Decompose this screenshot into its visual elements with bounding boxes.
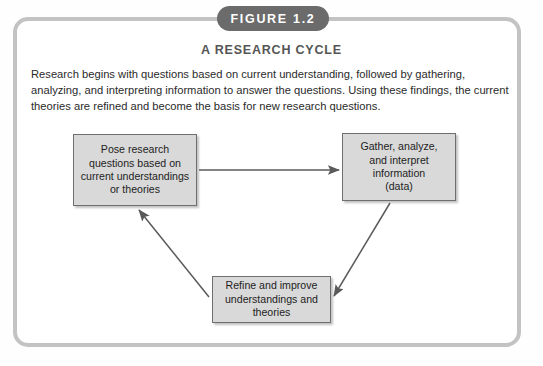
- figure-title: A RESEARCH CYCLE: [0, 43, 543, 57]
- figure-caption: Research begins with questions based on …: [31, 66, 513, 115]
- box-refine-label: Refine and improveunderstandings andtheo…: [225, 279, 318, 319]
- process-box-gather-analyze-interpret: Gather, analyze,and interpretinformation…: [342, 133, 456, 201]
- process-box-refine-improve: Refine and improveunderstandings andtheo…: [212, 276, 331, 323]
- figure-container: FIGURE 1.2 A RESEARCH CYCLE Research beg…: [0, 0, 543, 366]
- figure-number-badge: FIGURE 1.2: [217, 6, 329, 31]
- box-pose-label: Pose researchquestions based oncurrent u…: [81, 143, 189, 197]
- process-box-pose-research-questions: Pose researchquestions based oncurrent u…: [73, 134, 197, 206]
- box-gather-label: Gather, analyze,and interpretinformation…: [360, 140, 437, 194]
